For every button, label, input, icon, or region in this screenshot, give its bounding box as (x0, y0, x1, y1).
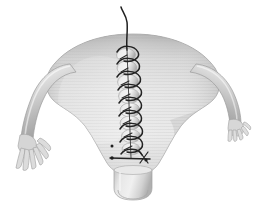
right-fimbria-1 (228, 130, 232, 141)
right-fimbriae (228, 119, 251, 141)
suture-knot-right (144, 158, 147, 161)
suture-knot-upper-left (111, 145, 114, 148)
right-fimbria-2 (233, 130, 237, 141)
illustration-canvas (0, 0, 267, 206)
cervix (114, 166, 152, 201)
suture-knot-left (110, 156, 113, 159)
uterus-illustration: Grayscale anatomical illustration of a u… (0, 0, 267, 206)
left-fimbriae (16, 134, 51, 170)
